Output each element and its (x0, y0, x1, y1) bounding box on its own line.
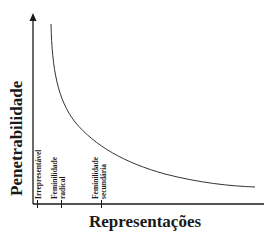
tick-label-feminilidade-radical-2: radical (58, 177, 67, 200)
penetrability-curve (51, 24, 255, 187)
tick-label-feminilidade-secundaria-2: secundária (99, 164, 108, 199)
x-axis-title: Representações (89, 212, 201, 231)
y-axis-title: Penetrabilidade (7, 80, 26, 196)
y-axis-arrow-icon (30, 13, 37, 21)
tick-label-irrepresentavel: Irrepresentável (34, 150, 43, 199)
diagram: Penetrabilidade Representações Irreprese… (0, 0, 273, 242)
